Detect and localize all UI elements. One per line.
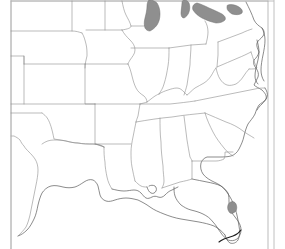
lake-okeechobee (228, 202, 237, 214)
map-canvas (0, 0, 285, 249)
outline-map-figure (0, 0, 285, 249)
map-background (0, 0, 285, 249)
